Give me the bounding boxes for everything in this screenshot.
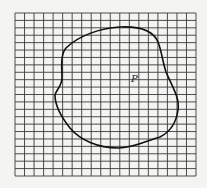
square-grid	[15, 13, 196, 176]
grid-figure: P	[0, 0, 207, 188]
region-label-p: P	[130, 73, 138, 84]
